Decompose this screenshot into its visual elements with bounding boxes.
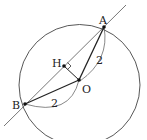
label-length-ob: 2 — [51, 97, 58, 110]
point-h — [62, 64, 66, 68]
geometry-diagram: A B O H 2 2 — [0, 0, 147, 139]
label-length-oa: 2 — [96, 54, 103, 67]
label-a: A — [98, 14, 108, 27]
point-o — [77, 78, 81, 82]
right-angle-mark — [68, 63, 72, 70]
label-b: B — [12, 99, 20, 112]
segment-oh — [64, 66, 79, 80]
point-b — [23, 102, 27, 106]
label-h: H — [52, 57, 62, 70]
label-o: O — [82, 83, 91, 96]
circle — [19, 25, 140, 140]
